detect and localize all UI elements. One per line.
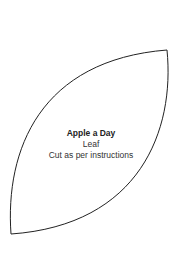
cut-instructions: Cut as per instructions — [30, 150, 152, 160]
piece-name: Leaf — [30, 139, 152, 149]
template-title: Apple a Day — [30, 128, 152, 138]
